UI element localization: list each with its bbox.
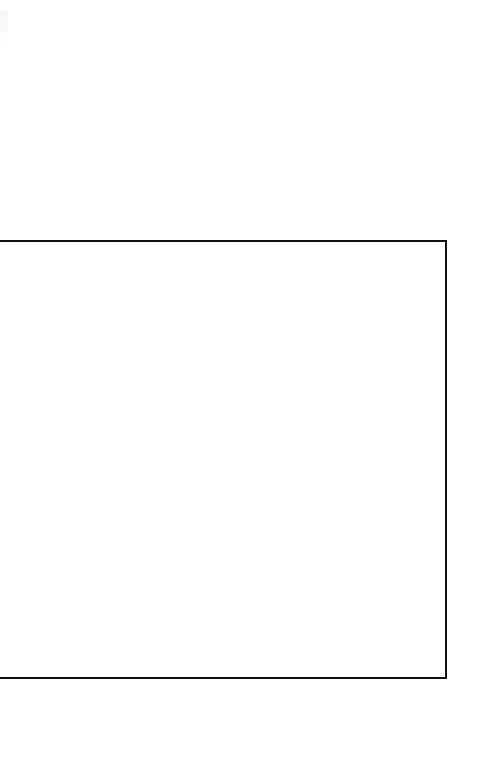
faded-header-text [0,0,490,16]
faded-edge-mark [0,10,8,46]
empty-content-frame [0,240,447,679]
